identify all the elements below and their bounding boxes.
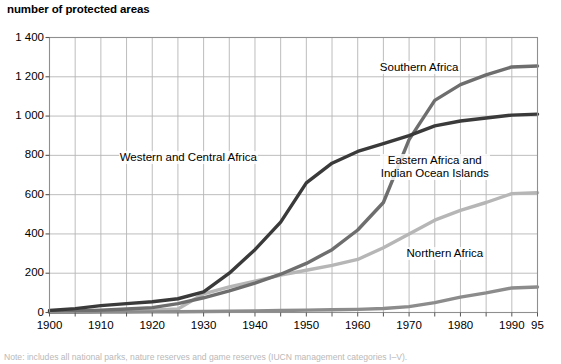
x-tick-label: 1950 — [286, 319, 326, 331]
series-line — [50, 66, 538, 312]
series-label-line: Indian Ocean Islands — [381, 167, 489, 180]
y-tick-label: 400 — [0, 227, 44, 239]
plot-area — [0, 0, 561, 364]
x-tick-label: 95 — [518, 319, 558, 331]
y-tick-label: 1 400 — [0, 31, 44, 43]
x-tick-label: 1960 — [338, 319, 378, 331]
y-tick-label: 800 — [0, 148, 44, 160]
chart-footnote: Note: includes all national parks, natur… — [4, 352, 557, 363]
x-tick-label: 1970 — [389, 319, 429, 331]
x-tick-label: 1910 — [81, 319, 121, 331]
y-tick-label: 0 — [0, 306, 44, 318]
x-tick-label: 1900 — [30, 319, 70, 331]
x-tick-label: 1940 — [235, 319, 275, 331]
series-label: Eastern Africa andIndian Ocean Islands — [380, 154, 490, 180]
series-label-line: Eastern Africa and — [381, 154, 489, 167]
x-tick-label: 1980 — [440, 319, 480, 331]
chart-figure: number of protected areas 02004006008001… — [0, 0, 561, 364]
y-tick-label: 200 — [0, 266, 44, 278]
series-layer — [50, 66, 538, 312]
x-tick-label: 1920 — [132, 319, 172, 331]
series-label: Northern Africa — [406, 247, 485, 260]
series-line — [50, 114, 538, 310]
y-tick-label: 600 — [0, 188, 44, 200]
series-label: Southern Africa — [379, 61, 460, 74]
x-tick-label: 1930 — [184, 319, 224, 331]
y-tick-label: 1 000 — [0, 109, 44, 121]
y-tick-label: 1 200 — [0, 70, 44, 82]
series-label: Western and Central Africa — [119, 151, 258, 164]
